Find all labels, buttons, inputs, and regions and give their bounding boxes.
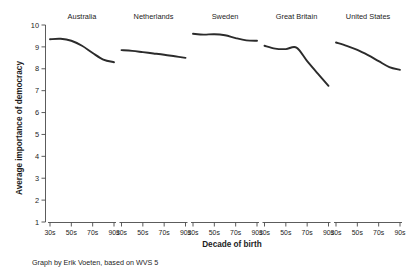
x-tick-label: 70s: [373, 229, 385, 236]
x-tick-label: 50s: [66, 229, 78, 236]
small-multiples-line-chart: Average importance of democracy 12345678…: [0, 0, 408, 272]
panel-title: United States: [346, 12, 391, 21]
y-tick-group: 12345678910: [31, 21, 46, 227]
y-tick-label: 4: [35, 152, 39, 161]
x-tick-label: 70s: [159, 229, 171, 236]
x-tick-label: 50s: [352, 229, 364, 236]
x-tick-label: 70s: [302, 229, 314, 236]
y-axis: 12345678910: [31, 21, 46, 227]
x-tick-label: 70s: [87, 229, 99, 236]
x-tick-label: 30s: [330, 229, 342, 236]
y-tick-label: 9: [35, 43, 39, 52]
chart-figure: Average importance of democracy 12345678…: [0, 0, 408, 272]
y-tick-label: 7: [35, 86, 39, 95]
series-line-united-states: [336, 43, 400, 70]
x-tick-label: 50s: [280, 229, 292, 236]
panel-sweden: Sweden30s50s70s90s: [187, 12, 263, 236]
panel-title: Netherlands: [134, 12, 174, 21]
panel-united-states: United States30s50s70s90s: [330, 12, 406, 236]
x-tick-label: 30s: [259, 229, 271, 236]
y-tick-label: 5: [35, 130, 39, 139]
x-tick-label: 30s: [187, 229, 199, 236]
y-tick-label: 10: [31, 21, 39, 30]
x-tick-label: 30s: [44, 229, 56, 236]
x-tick-label: 50s: [137, 229, 149, 236]
series-line-australia: [50, 39, 114, 62]
x-tick-label: 70s: [230, 229, 242, 236]
y-tick-label: 8: [35, 64, 39, 73]
panel-australia: Australia30s50s70s90s: [44, 12, 120, 236]
x-tick-label: 30s: [116, 229, 128, 236]
series-line-netherlands: [122, 50, 186, 58]
panel-title: Sweden: [212, 12, 239, 21]
chart-footnote: Graph by Erik Voeten, based on WVS 5: [32, 258, 158, 267]
series-line-great-britain: [265, 46, 329, 86]
x-tick-label: 90s: [394, 229, 406, 236]
y-tick-label: 6: [35, 108, 39, 117]
panel-title: Great Britain: [276, 12, 318, 21]
series-line-sweden: [193, 34, 257, 41]
y-tick-label: 2: [35, 196, 39, 205]
x-axis-title: Decade of birth: [202, 240, 262, 249]
panel-group: Australia30s50s70s90sNetherlands30s50s70…: [44, 12, 406, 236]
y-tick-label: 1: [35, 218, 39, 227]
panel-great-britain: Great Britain30s50s70s90s: [259, 12, 335, 236]
y-tick-label: 3: [35, 174, 39, 183]
y-axis-title: Average importance of democracy: [15, 61, 24, 195]
panel-title: Australia: [68, 12, 98, 21]
x-tick-label: 50s: [209, 229, 221, 236]
panel-netherlands: Netherlands30s50s70s90s: [116, 12, 192, 236]
